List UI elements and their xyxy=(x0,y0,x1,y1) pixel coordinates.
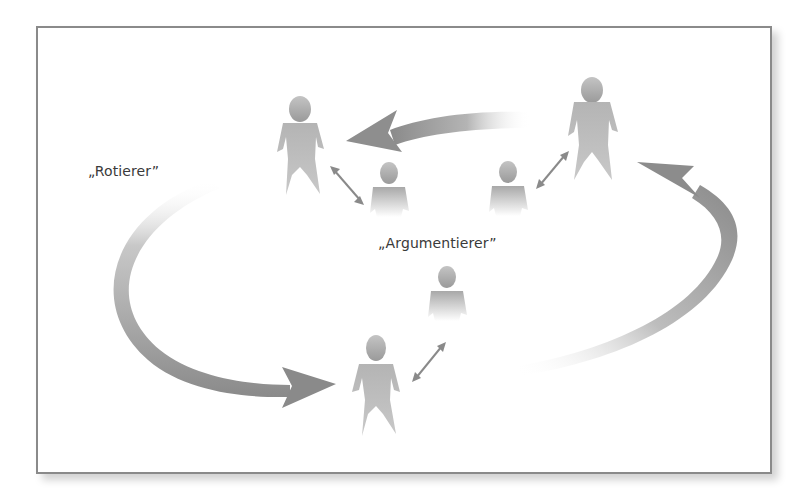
person-icon-small-bottom xyxy=(428,266,467,321)
label-argumentierer: „Argumentierer” xyxy=(378,235,497,251)
person-icon-small-right xyxy=(489,161,528,216)
person-icon-bottom-center xyxy=(352,335,400,436)
rotation-arrow-left xyxy=(114,180,336,408)
double-arrow-top-left xyxy=(330,166,364,205)
person-icon-top-left xyxy=(277,96,324,195)
rotation-arrow-right xyxy=(518,162,737,376)
label-rotierer: „Rotierer” xyxy=(88,163,159,179)
person-icon-small-left xyxy=(370,162,409,217)
rotation-arrow-top xyxy=(346,110,530,152)
person-icon-top-right xyxy=(568,77,618,180)
double-arrow-top-right xyxy=(536,151,569,189)
double-arrow-bottom xyxy=(412,342,446,382)
